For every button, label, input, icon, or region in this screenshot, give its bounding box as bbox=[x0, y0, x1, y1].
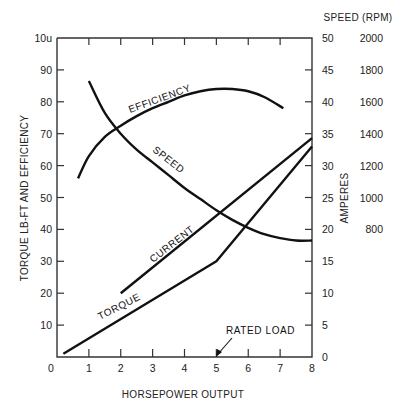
torque-curve bbox=[63, 146, 312, 353]
rated-load-label: RATED LOAD bbox=[226, 325, 295, 336]
y-right-tick-label: 45 bbox=[322, 64, 334, 76]
speed-tick-label: 1600 bbox=[360, 96, 384, 108]
motor-performance-chart: 01234567810203040506070809010u0510152025… bbox=[0, 0, 410, 417]
speed-label: SPEED bbox=[151, 144, 187, 175]
speed-axis-title: SPEED (RPM) bbox=[324, 12, 393, 23]
y-left-axis-title: TORQUE LB-FT AND EFFICIENCY bbox=[19, 115, 30, 282]
x-tick-label: 7 bbox=[277, 362, 283, 374]
speed-tick-label: 800 bbox=[365, 223, 383, 235]
y-right-tick-label: 35 bbox=[322, 128, 334, 140]
x-tick-label: 8 bbox=[309, 362, 315, 374]
speed-tick-label: 1000 bbox=[360, 192, 384, 204]
x-tick-label: 2 bbox=[118, 362, 124, 374]
x-tick-label: 4 bbox=[182, 362, 188, 374]
speed-tick-label: 1400 bbox=[360, 128, 384, 140]
y-left-tick-label: 20 bbox=[40, 287, 52, 299]
x-tick-label: 5 bbox=[213, 362, 219, 374]
x-tick-label: 6 bbox=[245, 362, 251, 374]
efficiency-label: EFFICIENCY bbox=[127, 82, 192, 115]
x-tick-label: 3 bbox=[150, 362, 156, 374]
speed-tick-label: 2000 bbox=[360, 32, 384, 44]
y-right-tick-label: 5 bbox=[322, 319, 328, 331]
y-left-tick-label: 50 bbox=[40, 192, 52, 204]
y-left-tick-label: 80 bbox=[40, 96, 52, 108]
y-left-tick-label: 10u bbox=[34, 32, 52, 44]
speed-tick-label: 1200 bbox=[360, 160, 384, 172]
y-right-tick-label: 40 bbox=[322, 96, 334, 108]
y-right-tick-label: 25 bbox=[322, 192, 334, 204]
y-left-tick-label: 10 bbox=[40, 319, 52, 331]
y-right-tick-label: 30 bbox=[322, 160, 334, 172]
y-right-tick-label: 20 bbox=[322, 223, 334, 235]
y-left-tick-label: 60 bbox=[40, 160, 52, 172]
y-left-tick-label: 30 bbox=[40, 255, 52, 267]
y-right-tick-label: 50 bbox=[322, 32, 334, 44]
torque-label: TORQUE bbox=[96, 291, 142, 322]
x-tick-label: 0 bbox=[48, 362, 54, 374]
y-left-tick-label: 90 bbox=[40, 64, 52, 76]
current-label: CURRENT bbox=[147, 223, 196, 264]
y-right-tick-label: 0 bbox=[322, 351, 328, 363]
y-right-axis-title: AMPERES bbox=[339, 172, 350, 223]
y-left-tick-label: 40 bbox=[40, 223, 52, 235]
speed-tick-label: 1800 bbox=[360, 64, 384, 76]
y-left-tick-label: 70 bbox=[40, 128, 52, 140]
x-tick-label: 1 bbox=[86, 362, 92, 374]
tick-labels: 01234567810203040506070809010u0510152025… bbox=[34, 32, 383, 374]
y-right-tick-label: 10 bbox=[322, 287, 334, 299]
x-axis-title: HORSEPOWER OUTPUT bbox=[122, 389, 244, 400]
y-right-tick-label: 15 bbox=[322, 255, 334, 267]
